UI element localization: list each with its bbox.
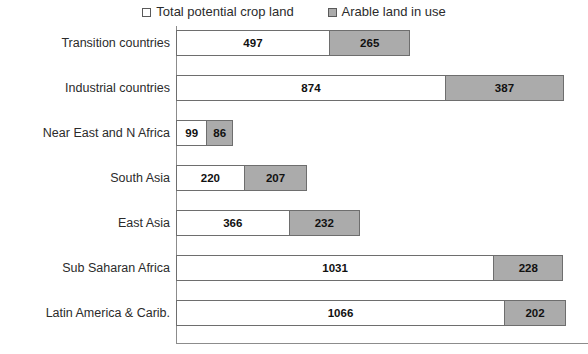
table-row: Latin America & Carib. 1066 202	[0, 300, 588, 326]
bar-segment-arable-in-use: 207	[244, 165, 308, 191]
bar-value-arable-in-use: 207	[266, 172, 285, 184]
category-label-transition-countries: Transition countries	[2, 30, 170, 56]
bar-segment-total-potential: 1066	[176, 300, 504, 326]
bar-track-latin-america-carib: 1066 202	[176, 300, 566, 326]
bar-segment-arable-in-use: 86	[206, 120, 232, 146]
bar-track-sub-saharan-africa: 1031 228	[176, 255, 563, 281]
bar-segment-total-potential: 497	[176, 30, 329, 56]
bar-value-arable-in-use: 387	[495, 82, 514, 94]
bar-value-total-potential: 497	[243, 37, 262, 49]
table-row: South Asia 220 207	[0, 165, 588, 191]
category-label-industrial-countries: Industrial countries	[2, 75, 170, 101]
bar-segment-total-potential: 220	[176, 165, 244, 191]
bar-segment-total-potential: 1031	[176, 255, 493, 281]
bar-segment-total-potential: 366	[176, 210, 289, 236]
bar-segment-arable-in-use: 265	[329, 30, 411, 56]
legend-entry-arable-land-in-use: Arable land in use	[328, 5, 446, 19]
chart-legend: Total potential crop land Arable land in…	[0, 2, 588, 22]
legend-label-arable-land-in-use: Arable land in use	[342, 5, 446, 19]
bar-value-arable-in-use: 228	[519, 262, 538, 274]
bar-value-total-potential: 1031	[322, 262, 348, 274]
category-label-latin-america-carib: Latin America & Carib.	[2, 300, 170, 326]
bar-value-arable-in-use: 232	[315, 217, 334, 229]
category-label-south-asia: South Asia	[2, 165, 170, 191]
bar-value-total-potential: 1066	[328, 307, 354, 319]
bar-value-arable-in-use: 86	[213, 127, 226, 139]
bar-segment-arable-in-use: 232	[289, 210, 360, 236]
bar-value-total-potential: 366	[223, 217, 242, 229]
legend-label-total-potential-crop-land: Total potential crop land	[156, 5, 293, 19]
table-row: Sub Saharan Africa 1031 228	[0, 255, 588, 281]
bar-track-south-asia: 220 207	[176, 165, 307, 191]
bar-value-arable-in-use: 202	[525, 307, 544, 319]
bar-value-total-potential: 220	[201, 172, 220, 184]
table-row: East Asia 366 232	[0, 210, 588, 236]
category-label-sub-saharan-africa: Sub Saharan Africa	[2, 255, 170, 281]
bar-track-industrial-countries: 874 387	[176, 75, 564, 101]
bar-segment-arable-in-use: 387	[445, 75, 564, 101]
bar-value-total-potential: 99	[185, 127, 198, 139]
bar-segment-total-potential: 99	[176, 120, 206, 146]
bar-segment-arable-in-use: 228	[493, 255, 563, 281]
bar-value-arable-in-use: 265	[360, 37, 379, 49]
table-row: Industrial countries 874 387	[0, 75, 588, 101]
category-label-east-asia: East Asia	[2, 210, 170, 236]
category-label-near-east-and-n-africa: Near East and N Africa	[2, 120, 170, 146]
table-row: Near East and N Africa 99 86	[0, 120, 588, 146]
bar-value-total-potential: 874	[301, 82, 320, 94]
legend-swatch-white-icon	[142, 8, 151, 17]
stacked-bar-chart: Total potential crop land Arable land in…	[0, 0, 588, 354]
bar-segment-arable-in-use: 202	[504, 300, 566, 326]
bar-track-transition-countries: 497 265	[176, 30, 410, 56]
bar-track-near-east-and-n-africa: 99 86	[176, 120, 233, 146]
legend-swatch-gray-icon	[328, 8, 337, 17]
table-row: Transition countries 497 265	[0, 30, 588, 56]
bar-track-east-asia: 366 232	[176, 210, 360, 236]
legend-entry-total-potential-crop-land: Total potential crop land	[142, 5, 293, 19]
plot-area: Transition countries 497 265 Industrial …	[0, 22, 588, 354]
bar-segment-total-potential: 874	[176, 75, 445, 101]
x-axis-baseline	[176, 343, 588, 344]
